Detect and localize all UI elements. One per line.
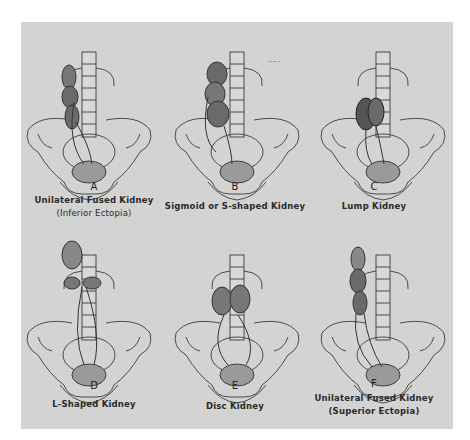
caption-line-1: Unilateral Fused Kidney: [19, 194, 169, 207]
caption-line-1: Disc Kidney: [160, 400, 310, 413]
pelvis-illustration-c: [306, 22, 456, 222]
figure-caption-a: Unilateral Fused Kidney (Inferior Ectopi…: [19, 194, 169, 220]
caption-line-2: (Superior Ectopia): [299, 405, 449, 418]
figure-caption-e: Disc Kidney: [160, 400, 310, 413]
figure-caption-d: L-Shaped Kidney: [19, 398, 169, 411]
caption-line-1: L-Shaped Kidney: [19, 398, 169, 411]
figure-caption-c: Lump Kidney: [299, 200, 449, 213]
caption-line-1: Lump Kidney: [299, 200, 449, 213]
pelvis-illustration-a: [12, 22, 162, 222]
caption-line-2: (Inferior Ectopia): [19, 207, 169, 220]
figure-letter-a: A: [19, 181, 169, 192]
figure-d: [12, 225, 162, 425]
pelvis-illustration-e: [160, 225, 310, 425]
pelvis-illustration-d: [12, 225, 162, 425]
figure-letter-c: C: [299, 181, 449, 192]
figure-letter-e: E: [160, 380, 310, 391]
caption-line-1: Unilateral Fused Kidney: [299, 392, 449, 405]
figure-b: [160, 22, 310, 222]
figure-letter-f: F: [299, 378, 449, 389]
figure-a: [12, 22, 162, 222]
figure-letter-d: D: [19, 380, 169, 391]
caption-line-1: Sigmoid or S-shaped Kidney: [150, 200, 320, 213]
handwritten-annotation: ~~~: [268, 58, 281, 64]
figure-caption-f: Unilateral Fused Kidney (Superior Ectopi…: [299, 392, 449, 418]
figure-c: [306, 22, 456, 222]
figure-caption-b: Sigmoid or S-shaped Kidney: [150, 200, 320, 213]
figure-letter-b: B: [160, 181, 310, 192]
pelvis-illustration-b: [160, 22, 310, 222]
figure-e: [160, 225, 310, 425]
